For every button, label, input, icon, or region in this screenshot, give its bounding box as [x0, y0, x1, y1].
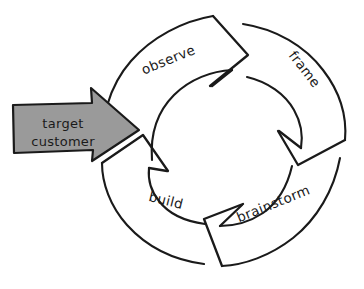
label-observe: observe — [139, 41, 198, 77]
entry-arrow-line-1: target — [42, 116, 83, 131]
observe-inner-arc — [152, 70, 232, 160]
diagram-canvas: target customer observe frame brainstorm… — [0, 0, 364, 289]
label-frame: frame — [286, 47, 324, 90]
build-outer-arc — [102, 163, 204, 264]
frame-inner-arc — [247, 77, 302, 148]
label-brainstorm: brainstorm — [234, 181, 312, 225]
build-arrowhead-inner — [149, 168, 167, 171]
cycle-diagram: target customer observe frame brainstorm… — [0, 0, 364, 289]
cycle-segment-frame — [243, 24, 345, 165]
frame-arrowhead — [278, 131, 345, 165]
observe-arrowhead — [210, 16, 248, 86]
entry-arrow-line-2: customer — [31, 134, 95, 149]
frame-outer-arc — [243, 24, 345, 140]
